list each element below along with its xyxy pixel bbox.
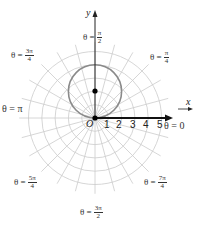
- angle-label-0-text: θ = 0: [164, 121, 184, 130]
- grid-ray: [95, 52, 133, 118]
- radial-tick-4: 4: [143, 119, 149, 130]
- angle-label-eq: θ =: [14, 178, 26, 187]
- angle-label-eq: θ =: [11, 51, 23, 60]
- fraction: 5π4: [28, 175, 37, 190]
- fraction: 3π2: [94, 205, 103, 220]
- denominator: 4: [165, 58, 169, 65]
- fraction: π2: [97, 30, 103, 45]
- angle-label-eq: θ =: [80, 208, 92, 217]
- grid-ray: [57, 52, 95, 118]
- fraction: π4: [164, 50, 170, 65]
- angle-label-eq: θ =: [83, 33, 95, 42]
- radial-tick-3: 3: [130, 119, 136, 130]
- fraction: 3π4: [25, 48, 34, 63]
- x-axis-label: x: [186, 96, 190, 107]
- denominator: 2: [96, 213, 100, 220]
- denominator: 4: [30, 183, 34, 190]
- denominator: 4: [27, 56, 31, 63]
- angle-label-5pi-4: θ = 5π4: [14, 175, 37, 190]
- denominator: 2: [98, 38, 102, 45]
- origin-label: O: [86, 118, 93, 129]
- angle-label-pi-text: θ = π: [2, 104, 22, 113]
- radial-tick-5: 5: [157, 119, 163, 130]
- radial-tick-2: 2: [116, 119, 122, 130]
- grid-ray: [95, 80, 161, 118]
- angle-label-pi-4: θ = π4: [150, 50, 169, 65]
- angle-label-pi-2: θ = π2: [83, 30, 102, 45]
- radial-tick-1: 1: [104, 119, 110, 130]
- center-point: [92, 88, 97, 93]
- fraction: 7π4: [158, 175, 167, 190]
- y-arrow-head: [93, 10, 98, 17]
- angle-label-3pi-2: θ = 3π2: [80, 205, 103, 220]
- x-arrow-head: [188, 107, 193, 111]
- angle-label-eq: θ =: [144, 178, 156, 187]
- angle-label-0: θ = 0: [164, 121, 184, 130]
- angle-label-3pi-4: θ = 3π4: [11, 48, 34, 63]
- denominator: 4: [160, 183, 164, 190]
- angle-label-7pi-4: θ = 7π4: [144, 175, 167, 190]
- y-axis-label: y: [86, 7, 90, 18]
- angle-label-pi: θ = π: [2, 104, 22, 113]
- angle-label-eq: θ =: [150, 53, 162, 62]
- grid-ray: [95, 118, 133, 184]
- grid-ray: [29, 80, 95, 118]
